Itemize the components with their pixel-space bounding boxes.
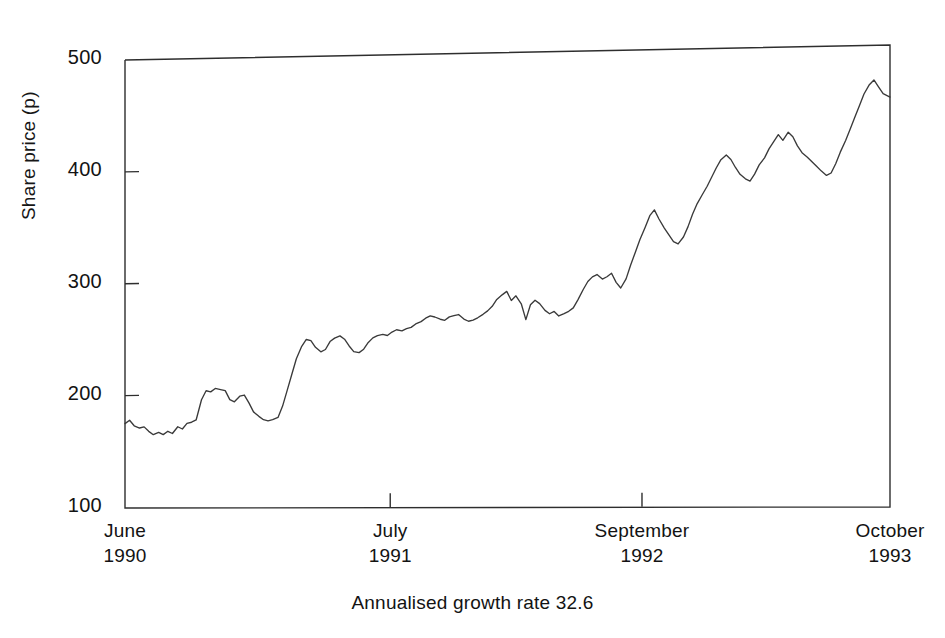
y-tick-label: 300 [42,270,102,293]
y-tick-label: 200 [42,382,102,405]
x-tick-label: July1991 [300,518,480,568]
y-tick-label: 100 [42,494,102,517]
x-tick-month: September [552,518,732,543]
chart-caption: Annualised growth rate 32.6 [0,592,945,614]
y-tick-label: 500 [42,46,102,69]
x-axis-ticks [390,493,642,507]
y-axis-title: Share price (p) [18,0,40,220]
x-tick-year: 1992 [552,543,732,568]
x-tick-month: June [35,518,215,543]
x-tick-label: October1993 [800,518,945,568]
x-tick-month: July [300,518,480,543]
plot-frame [125,45,890,508]
x-tick-month: October [800,518,945,543]
x-tick-year: 1990 [35,543,215,568]
y-tick-label: 400 [42,158,102,181]
x-tick-year: 1993 [800,543,945,568]
x-tick-label: June1990 [35,518,215,568]
share-price-series-line [125,80,890,435]
chart-figure: Share price (p) 100200300400500 June1990… [0,0,945,638]
y-axis-ticks [125,172,139,396]
x-tick-label: September1992 [552,518,732,568]
x-tick-year: 1991 [300,543,480,568]
